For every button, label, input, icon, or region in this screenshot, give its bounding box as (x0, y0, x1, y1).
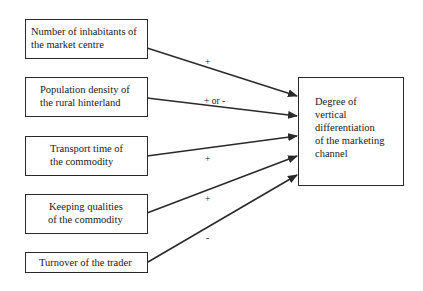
sign-population-density: + or - (204, 96, 225, 106)
factor-box-transport-time: Transport time of the commodity (25, 136, 148, 176)
factor-label-line1: Number of inhabitants of (31, 25, 137, 38)
outcome-box: Degree of vertical differentiation of th… (298, 77, 404, 186)
arrow-turnover (148, 175, 297, 262)
factor-label-line2: the rural hinterland (40, 96, 120, 109)
factor-box-population-density: Population density of the rural hinterla… (25, 77, 148, 117)
outcome-label-line2: vertical (315, 108, 346, 121)
factor-box-keeping-qualities: Keeping qualities of the commodity (25, 194, 148, 234)
sign-keeping-qualities: + (205, 194, 210, 204)
outcome-label-line3: differentiation (315, 121, 375, 134)
outcome-label-line4: of the marketing (315, 134, 384, 147)
sign-inhabitants: + (205, 57, 210, 67)
sign-turnover: - (206, 233, 209, 243)
arrow-transport-time (147, 136, 297, 156)
arrow-keeping-qualities (147, 156, 297, 213)
factor-label-line2: the commodity (50, 155, 113, 168)
factor-label-line2: of the commodity (48, 213, 123, 226)
sign-transport-time: + (205, 154, 210, 164)
factor-box-turnover: Turnover of the trader (25, 252, 148, 273)
arrow-inhabitants (147, 48, 297, 96)
factor-label-line1: Turnover of the trader (39, 256, 132, 269)
outcome-label-line5: channel (315, 147, 348, 160)
factor-label-line1: Keeping qualities (49, 200, 123, 213)
factor-box-inhabitants: Number of inhabitants of the market cent… (25, 19, 148, 59)
factor-label-line1: Population density of (40, 83, 130, 96)
factor-label-line2: the market centre (31, 38, 104, 51)
outcome-label-line1: Degree of (315, 95, 357, 108)
factor-label-line1: Transport time of (50, 142, 123, 155)
